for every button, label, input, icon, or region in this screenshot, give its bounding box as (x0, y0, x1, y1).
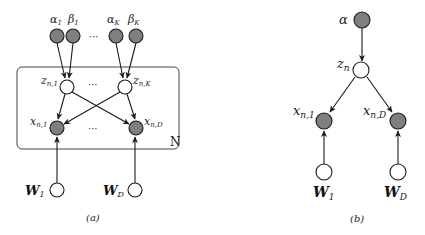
node-z-n (353, 62, 369, 78)
label-w-d: WD (103, 183, 125, 199)
label-alpha-1: α1 (50, 13, 62, 27)
dots-top: ··· (89, 31, 99, 42)
node-w-1 (50, 183, 64, 197)
dots-middle: ··· (88, 79, 98, 90)
label-x-n-1: xn,1 (293, 103, 315, 120)
dots-bottom: ··· (88, 123, 98, 134)
node-w-d (128, 183, 142, 197)
label-z-n: zn (336, 56, 350, 73)
node-x-n-d (129, 121, 143, 135)
node-alpha-k (109, 29, 123, 43)
plate-label: N (170, 135, 181, 149)
node-z-n-1 (60, 80, 74, 94)
node-alpha (354, 12, 370, 28)
node-beta-1 (66, 29, 80, 43)
label-alpha: α (339, 12, 348, 27)
label-beta-1: β1 (67, 13, 79, 27)
node-z-n-k (118, 80, 132, 94)
label-z-n-1: zn,1 (40, 74, 58, 88)
label-beta-k: βK (127, 13, 140, 27)
label-x-n-1: xn,1 (30, 115, 47, 129)
node-w-1 (316, 164, 332, 180)
node-beta-k (129, 29, 143, 43)
node-x-n-d (390, 113, 406, 129)
label-w-1: W1 (25, 183, 45, 199)
node-w-d (390, 164, 406, 180)
caption-a: (a) (86, 212, 100, 223)
label-x-n-d: xn,D (363, 103, 386, 120)
node-x-n-1 (50, 121, 64, 135)
node-x-n-1 (316, 113, 332, 129)
label-x-n-d: xn,D (144, 115, 163, 129)
edges-b (324, 28, 398, 164)
panel-a: N ··· α1 β1 αK βK (17, 13, 181, 223)
label-z-n-k: zn,K (132, 74, 152, 88)
node-alpha-1 (50, 29, 64, 43)
panel-b: α zn xn,1 xn,D W1 WD (b) (293, 12, 407, 224)
caption-b: (b) (350, 213, 364, 224)
edges-a (57, 43, 136, 183)
graphical-model-figure: N ··· α1 β1 αK βK (0, 0, 425, 235)
label-alpha-k: αK (107, 13, 120, 27)
label-w-d: WD (384, 184, 407, 202)
label-w-1: W1 (313, 184, 334, 202)
